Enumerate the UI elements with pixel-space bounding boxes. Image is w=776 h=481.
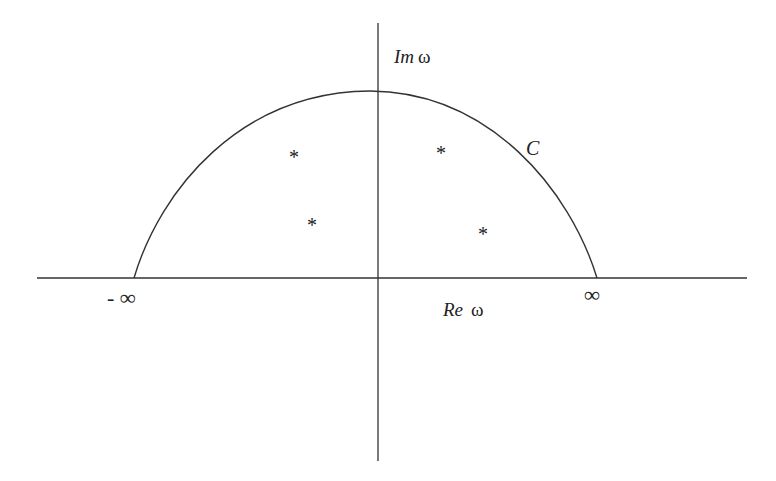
contour-label: C: [526, 137, 540, 159]
pole-marker-3: *: [436, 142, 446, 164]
right-infinity-label: ∞: [584, 282, 600, 307]
complex-plane-diagram: Imω Reω C - ∞ ∞ ****: [0, 0, 776, 481]
pole-marker-1: *: [289, 146, 299, 168]
pole-marker-4: *: [478, 223, 488, 245]
poles-group: ****: [289, 142, 488, 245]
left-infinity-label: - ∞: [107, 285, 136, 310]
pole-marker-2: *: [307, 214, 317, 236]
imaginary-axis-label: Imω: [393, 46, 431, 67]
real-axis-label: Reω: [442, 299, 484, 320]
contour-c-arc: [134, 91, 597, 278]
